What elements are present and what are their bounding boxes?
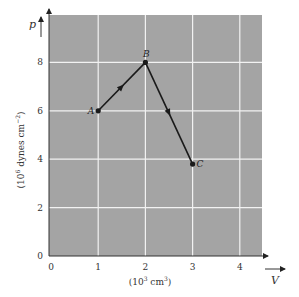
y-tick-label: 6 xyxy=(37,106,43,116)
x-tick-label: 2 xyxy=(143,262,149,272)
x-axis-title: (103 cm3) xyxy=(129,275,172,287)
p-variable-indicator: p xyxy=(29,17,41,37)
y-tick-label: 8 xyxy=(37,57,43,67)
x-variable-label: V xyxy=(271,274,280,287)
point-label: C xyxy=(197,159,204,169)
x-tick-label: 4 xyxy=(237,262,243,272)
plot-area xyxy=(49,15,262,256)
y-tick-label: 0 xyxy=(37,251,43,261)
y-axis-title: (106 dynes cm−2) xyxy=(14,111,26,188)
point-label: B xyxy=(142,49,150,59)
y-tick-label: 4 xyxy=(37,154,43,164)
v-variable-indicator: V xyxy=(265,269,285,287)
y-tick-label: 2 xyxy=(37,203,43,213)
x-tick-label: 0 xyxy=(48,262,54,272)
data-point xyxy=(190,161,195,166)
x-tick-label: 1 xyxy=(95,262,101,272)
point-label: A xyxy=(87,106,95,116)
x-tick-label: 3 xyxy=(190,262,196,272)
y-variable-label: p xyxy=(29,18,36,31)
data-point xyxy=(143,60,148,65)
data-point xyxy=(96,108,101,113)
pv-chart: 0123402468 ABC (103 cm3) (106 dynes cm−2… xyxy=(0,0,299,297)
